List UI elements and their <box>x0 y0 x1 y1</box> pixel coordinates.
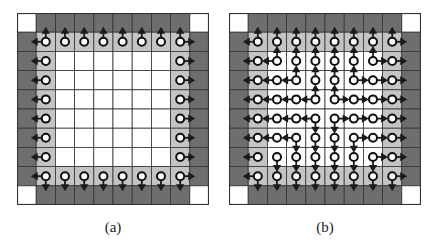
node-circle-icon <box>350 172 358 180</box>
node-circle-icon <box>388 153 396 161</box>
grid-cell <box>151 109 170 128</box>
node-circle-icon <box>254 57 262 65</box>
node-circle-icon <box>369 153 377 161</box>
node-circle-icon <box>311 153 319 161</box>
node-circle-icon <box>331 153 339 161</box>
grid-cell <box>75 71 94 90</box>
grid-cell <box>75 90 94 109</box>
grid-cell <box>75 51 94 70</box>
flow-grid-b <box>229 13 421 205</box>
grid-cell <box>113 90 132 109</box>
node-circle-icon <box>292 172 300 180</box>
node-circle-icon <box>138 172 146 180</box>
node-circle-icon <box>273 134 281 142</box>
node-circle-icon <box>369 172 377 180</box>
node-circle-icon <box>311 95 319 103</box>
node-circle-icon <box>119 172 127 180</box>
node-circle-icon <box>311 38 319 46</box>
node-circle-icon <box>369 134 377 142</box>
node-circle-icon <box>176 134 184 142</box>
grid-cell <box>132 71 151 90</box>
node-circle-icon <box>254 134 262 142</box>
node-circle-icon <box>273 95 281 103</box>
node-circle-icon <box>292 153 300 161</box>
node-circle-icon <box>388 115 396 123</box>
grid-cell <box>229 186 248 205</box>
node-circle-icon <box>388 38 396 46</box>
node-circle-icon <box>42 153 50 161</box>
node-circle-icon <box>176 172 184 180</box>
node-circle-icon <box>254 115 262 123</box>
grid-cell <box>151 90 170 109</box>
node-circle-icon <box>331 57 339 65</box>
node-circle-icon <box>350 76 358 84</box>
node-circle-icon <box>292 38 300 46</box>
node-circle-icon <box>61 38 69 46</box>
node-circle-icon <box>254 38 262 46</box>
node-circle-icon <box>42 134 50 142</box>
grid-cell <box>17 13 36 32</box>
node-circle-icon <box>350 153 358 161</box>
node-circle-icon <box>157 38 165 46</box>
grid-cell <box>402 13 421 32</box>
node-circle-icon <box>369 95 377 103</box>
node-circle-icon <box>350 57 358 65</box>
node-circle-icon <box>119 38 127 46</box>
grid-cell <box>75 147 94 166</box>
grid-cell <box>132 147 151 166</box>
node-circle-icon <box>42 172 50 180</box>
node-circle-icon <box>350 95 358 103</box>
grid-cell <box>94 90 113 109</box>
grid-cell <box>132 90 151 109</box>
grid-cell <box>75 109 94 128</box>
node-circle-icon <box>388 134 396 142</box>
node-circle-icon <box>311 57 319 65</box>
node-circle-icon <box>176 76 184 84</box>
grid-cell <box>55 51 74 70</box>
node-circle-icon <box>176 38 184 46</box>
node-circle-icon <box>42 95 50 103</box>
node-circle-icon <box>350 38 358 46</box>
node-circle-icon <box>369 57 377 65</box>
grid-cell <box>94 71 113 90</box>
grid-cell <box>55 128 74 147</box>
grid-cell <box>132 51 151 70</box>
node-circle-icon <box>176 57 184 65</box>
node-circle-icon <box>99 172 107 180</box>
node-circle-icon <box>292 57 300 65</box>
grid-cell <box>75 128 94 147</box>
node-circle-icon <box>176 95 184 103</box>
node-circle-icon <box>311 172 319 180</box>
node-circle-icon <box>311 115 319 123</box>
grid-cell <box>113 109 132 128</box>
grid-cell <box>132 109 151 128</box>
node-circle-icon <box>350 134 358 142</box>
node-circle-icon <box>388 57 396 65</box>
node-circle-icon <box>80 38 88 46</box>
grid-cell <box>151 147 170 166</box>
grid-cell <box>190 13 209 32</box>
flow-grid-a <box>17 13 209 205</box>
node-circle-icon <box>331 76 339 84</box>
node-circle-icon <box>292 115 300 123</box>
grid-cell <box>151 51 170 70</box>
node-circle-icon <box>42 76 50 84</box>
grid-panel-b <box>229 13 421 205</box>
node-circle-icon <box>331 134 339 142</box>
node-circle-icon <box>61 172 69 180</box>
grid-cell <box>151 128 170 147</box>
grid-cell <box>132 128 151 147</box>
node-circle-icon <box>42 115 50 123</box>
node-circle-icon <box>388 172 396 180</box>
node-circle-icon <box>273 172 281 180</box>
node-circle-icon <box>42 38 50 46</box>
grid-cell <box>113 147 132 166</box>
node-circle-icon <box>331 95 339 103</box>
node-circle-icon <box>254 172 262 180</box>
node-circle-icon <box>138 38 146 46</box>
node-circle-icon <box>331 172 339 180</box>
grid-cell <box>113 51 132 70</box>
grid-cell <box>94 51 113 70</box>
grid-cell <box>17 186 36 205</box>
grid-cell <box>94 147 113 166</box>
